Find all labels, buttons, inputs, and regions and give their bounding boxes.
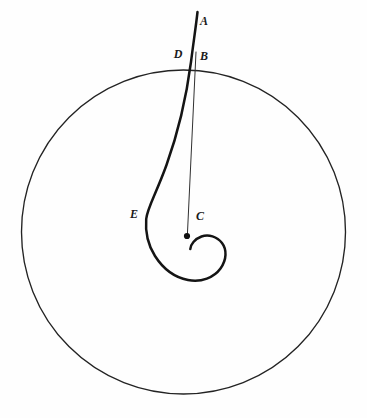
label-d: D <box>173 47 183 61</box>
label-a: A <box>199 14 208 28</box>
label-e: E <box>129 207 138 221</box>
outer-circle <box>22 70 346 394</box>
spiral-curve <box>146 12 225 281</box>
spiral-pole-dot <box>184 233 190 239</box>
figure-canvas: A B C D E <box>0 0 367 418</box>
spiral-figure-svg: A B C D E <box>0 0 367 418</box>
label-b: B <box>199 49 208 63</box>
label-c: C <box>196 209 205 223</box>
